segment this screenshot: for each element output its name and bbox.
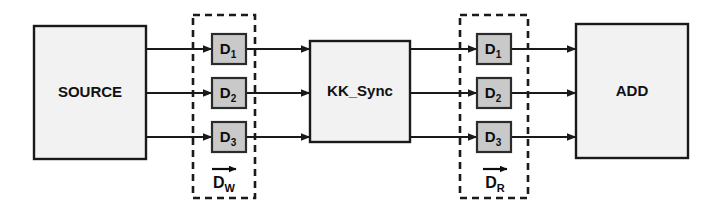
- block-kk-sync: KK_Sync: [310, 41, 410, 142]
- block-diagram: SOURCE KK_Sync ADD D1 D2 D3 DW: [0, 0, 716, 215]
- block-add: ADD: [576, 24, 688, 158]
- block-source: SOURCE: [34, 26, 146, 159]
- register-dr3: D3: [477, 122, 511, 152]
- read-bank-vector-label: DR: [483, 169, 507, 194]
- kksync-block-label: KK_Sync: [327, 82, 393, 99]
- diagram-canvas: SOURCE KK_Sync ADD D1 D2 D3 DW: [0, 0, 716, 215]
- register-dw1: D1: [212, 34, 246, 64]
- register-dr2: D2: [477, 78, 511, 108]
- add-block-label: ADD: [616, 82, 649, 99]
- vector-label-dw: DW: [213, 174, 236, 194]
- register-dr1: D1: [477, 34, 511, 64]
- vector-label-dr: DR: [485, 174, 505, 194]
- register-dw2: D2: [212, 78, 246, 108]
- write-bank-vector-label: DW: [212, 169, 236, 194]
- register-dw3: D3: [212, 122, 246, 152]
- source-block-label: SOURCE: [58, 83, 122, 100]
